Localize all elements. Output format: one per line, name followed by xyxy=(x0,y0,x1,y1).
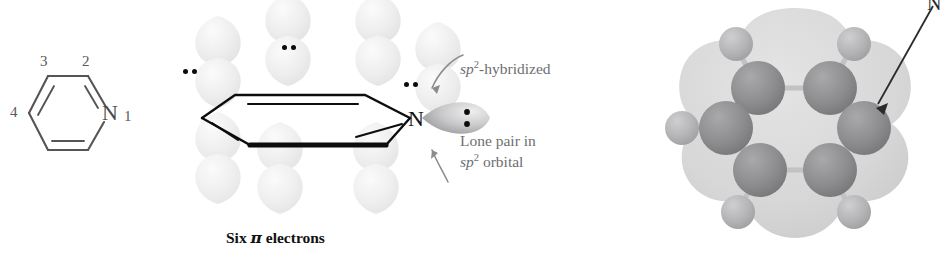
ring-nitrogen-label: N xyxy=(408,106,424,131)
pi-symbol: π xyxy=(251,228,262,247)
caption-before: Six xyxy=(226,229,251,246)
lone-pair-line2: sp2 orbital xyxy=(460,151,536,172)
lone-pair-dots-right xyxy=(404,73,422,91)
ring-position-1: 1 xyxy=(124,108,132,125)
carbon-sphere xyxy=(699,101,753,155)
lone-pair-line1: Lone pair in xyxy=(460,131,536,151)
hydrogen-sphere xyxy=(837,27,871,61)
carbon-sphere xyxy=(733,143,787,197)
model-svg xyxy=(650,0,941,256)
sp2-rest: -hybridized xyxy=(479,60,550,77)
ring-position-3: 3 xyxy=(40,53,48,70)
lone-pair-rest: orbital xyxy=(479,153,523,170)
pyridine-figure: 3 2 4 N 1 xyxy=(0,0,941,256)
lone-pair-italic-sp: sp xyxy=(460,153,474,170)
hydrogen-sphere xyxy=(721,195,755,229)
ring-position-4: 4 xyxy=(10,104,18,121)
model-nitrogen-label: N xyxy=(927,0,941,15)
caption-after: electrons xyxy=(262,229,325,246)
annotation-lone-pair: Lone pair in sp2 orbital xyxy=(460,131,536,172)
carbon-sphere xyxy=(803,143,857,197)
pyridine-skeletal-structure: 3 2 4 N 1 xyxy=(0,0,160,256)
six-pi-electrons-caption: Six π electrons xyxy=(226,228,325,247)
orbital-svg: N xyxy=(160,0,650,256)
sp2-italic-sp: sp xyxy=(460,60,474,77)
lone-pair-dots-left xyxy=(183,60,201,78)
nitrogen-atom-label: N xyxy=(102,100,118,126)
lone-pair-dots-center xyxy=(282,36,300,54)
hydrogen-sphere xyxy=(837,195,871,229)
hydrogen-sphere xyxy=(665,111,699,145)
ring-position-2: 2 xyxy=(82,53,90,70)
space-filling-model: N xyxy=(650,0,941,256)
pi-orbital-diagram: N sp2 xyxy=(160,0,650,256)
hydrogen-sphere xyxy=(719,27,753,61)
skeletal-svg xyxy=(0,0,160,256)
annotation-sp2-hybridized: sp2-hybridized xyxy=(460,58,551,79)
